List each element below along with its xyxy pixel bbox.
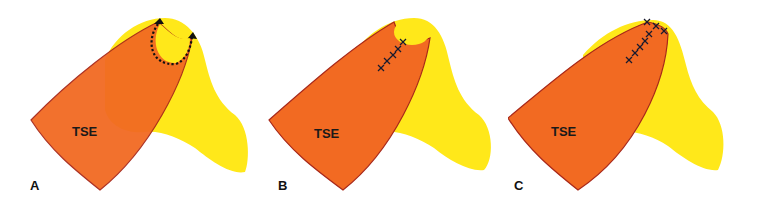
panel-c: TSE C [508,0,762,205]
tse-label: TSE [551,124,576,139]
panel-c-illustration [508,0,762,205]
panel-a-illustration [0,0,254,205]
panel-label: A [30,178,39,193]
panel-a: TSE A [0,0,254,205]
panel-b-illustration [254,0,508,205]
tse-label: TSE [72,124,97,139]
tse-flap [269,22,430,190]
tse-label: TSE [314,126,339,141]
tse-flap [508,22,668,190]
panel-label: B [278,178,287,193]
panel-label: C [514,178,523,193]
panel-b: TSE B [254,0,508,205]
